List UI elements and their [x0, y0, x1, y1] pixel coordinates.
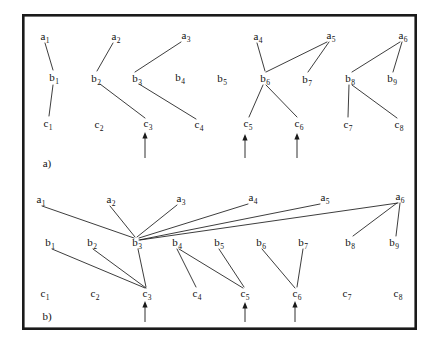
edge-b4-c5 [179, 249, 243, 288]
node-label-panel-a-a5: a5 [326, 30, 335, 41]
arrow-head-b-c6 [292, 301, 297, 308]
node-label-panel-a-b4: b4 [175, 72, 185, 83]
edge-b3-c3 [138, 249, 146, 287]
node-label-panel-a-b6: b6 [260, 73, 270, 84]
node-label-panel-a-c3: c3 [143, 118, 152, 129]
edge-b6-c6 [262, 249, 295, 288]
edge-a2-b3 [110, 206, 135, 237]
panel-caption-a: a) [43, 158, 52, 169]
edge-b3-c4 [139, 84, 196, 119]
node-label-panel-a-c2: c2 [94, 119, 103, 130]
node-label-panel-a-b1: b1 [49, 72, 59, 83]
arrow-head-b-c5 [242, 302, 247, 309]
node-label-panel-a-b5: b5 [217, 73, 227, 84]
node-label-panel-a-b2: b2 [91, 73, 101, 84]
edge-b6-c5 [249, 85, 263, 117]
edge-a4-b6 [257, 43, 265, 71]
node-label-panel-b-b3: b3 [132, 237, 142, 248]
node-label-panel-b-a3: a3 [176, 193, 185, 204]
node-label-panel-b-a1: a1 [36, 194, 45, 205]
edge-b2-c3 [93, 249, 146, 288]
node-label-panel-a-a4: a4 [253, 31, 262, 42]
edge-a4-b3 [139, 204, 248, 238]
node-label-panel-b-c7: c7 [342, 288, 351, 299]
node-label-panel-b-c2: c2 [90, 288, 99, 299]
node-label-panel-b-a5: a5 [320, 192, 329, 203]
edge-b7-c6 [297, 249, 303, 287]
node-label-panel-b-c1: c1 [40, 288, 49, 299]
node-label-panel-a-c4: c4 [194, 119, 203, 130]
node-label-panel-b-c8: c8 [393, 288, 402, 299]
node-label-panel-b-a4: a4 [248, 192, 257, 203]
edge-a6-b8 [353, 203, 397, 236]
node-label-panel-b-b6: b6 [256, 237, 266, 248]
edge-a1-b1 [45, 43, 53, 70]
edge-b4-c4 [177, 249, 196, 287]
diagram-canvas [0, 0, 436, 349]
edge-a6-b3 [140, 203, 398, 240]
node-label-panel-a-a2: a2 [111, 31, 120, 42]
node-label-panel-b-b4: b4 [172, 237, 182, 248]
node-label-panel-b-b9: b9 [389, 237, 399, 248]
node-label-panel-a-c8: c8 [394, 119, 403, 130]
edge-a5-b6 [266, 42, 327, 72]
node-label-panel-a-a3: a3 [181, 30, 190, 41]
node-label-panel-a-b3: b3 [132, 73, 142, 84]
edge-b1-c1 [49, 85, 53, 116]
figure-border-rect [23, 15, 415, 328]
node-label-panel-a-b9: b9 [387, 73, 397, 84]
edge-a6-b9 [396, 203, 400, 236]
node-label-panel-b-c3: c3 [142, 288, 151, 299]
edge-b2-c3 [100, 84, 145, 118]
figure-border [23, 15, 415, 328]
node-label-panel-b-c4: c4 [192, 288, 201, 299]
node-label-panel-b-b1: b1 [45, 237, 55, 248]
edge-b6-c6 [266, 85, 297, 117]
node-label-panel-b-c5: c5 [240, 288, 249, 299]
edge-b8-c7 [348, 85, 349, 117]
node-label-panel-b-a2: a2 [106, 194, 115, 205]
node-label-panel-a-c6: c6 [294, 118, 303, 129]
node-label-panel-b-b2: b2 [87, 237, 97, 248]
node-label-panel-a-a1: a1 [40, 31, 49, 42]
node-label-panel-b-b5: b5 [214, 237, 224, 248]
node-label-panel-b-c6: c6 [292, 288, 301, 299]
edge-a3-b3 [135, 42, 181, 72]
edge-b8-c8 [352, 85, 397, 118]
arrow-head-a-c6 [294, 133, 299, 140]
arrow-head-b-c3 [142, 301, 147, 308]
edge-b1-c3 [52, 249, 145, 288]
arrow-head-a-c3 [142, 132, 147, 139]
node-label-panel-a-a6: a6 [398, 30, 407, 41]
edge-a2-b2 [97, 43, 113, 71]
node-label-panel-b-a6: a6 [395, 191, 404, 202]
edge-a6-b9 [393, 42, 402, 72]
node-label-panel-a-c5: c5 [243, 118, 252, 129]
edge-a6-b8 [352, 42, 400, 72]
node-label-panel-b-b8: b8 [345, 237, 355, 248]
arrow-head-a-c5 [242, 134, 247, 141]
panel-caption-b: b) [42, 311, 51, 322]
node-label-panel-a-c7: c7 [343, 119, 352, 130]
figure-container: a1a2a3a4a5a6b1b2b3b4b5b6b7b8b9c1c2c3c4c5… [0, 0, 436, 349]
node-label-panel-a-c1: c1 [43, 118, 52, 129]
node-label-panel-a-b8: b8 [345, 73, 355, 84]
node-label-panel-a-b7: b7 [302, 74, 312, 85]
arrow-layer [142, 132, 299, 322]
node-label-panel-b-b7: b7 [298, 237, 308, 248]
edge-a1-b3 [42, 206, 134, 238]
